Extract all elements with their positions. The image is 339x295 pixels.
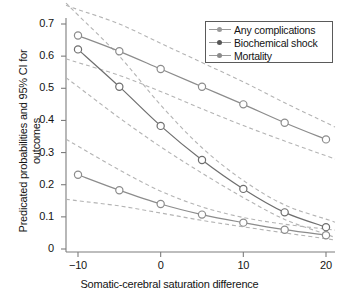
legend-marker-icon (209, 25, 231, 35)
data-point-marker (281, 226, 288, 233)
legend-label: Mortality (234, 50, 272, 62)
data-point-marker (322, 136, 329, 143)
data-point-marker (240, 185, 247, 192)
ci-band-line (66, 199, 335, 240)
x-axis-title: Somatic-cerebral saturation difference (0, 278, 339, 290)
y-tick-label: 0.3 (26, 146, 54, 158)
data-point-marker (198, 83, 205, 90)
y-tick-label: 0 (26, 242, 54, 254)
y-tick-label: 0.6 (26, 49, 54, 61)
data-point-marker (198, 211, 205, 218)
legend-marker-icon (209, 51, 231, 61)
data-point-marker (198, 156, 205, 163)
data-point-marker (74, 46, 81, 53)
data-point-marker (157, 200, 164, 207)
data-point-marker (240, 101, 247, 108)
data-point-marker (240, 219, 247, 226)
y-tick-label: 0.2 (26, 178, 54, 190)
ci-band-line (66, 59, 335, 159)
data-point-marker (116, 83, 123, 90)
chart-legend: Any complications Biochemical shock Mort… (205, 21, 333, 63)
y-tick-label: 0.4 (26, 113, 54, 125)
x-tick-label: 20 (309, 259, 339, 271)
legend-label: Biochemical shock (234, 37, 318, 49)
data-point-marker (157, 122, 164, 129)
y-tick-label: 0.5 (26, 81, 54, 93)
legend-item-any-complications: Any complications (209, 24, 332, 36)
legend-item-mortality: Mortality (209, 50, 332, 62)
legend-item-biochemical-shock: Biochemical shock (209, 37, 332, 49)
data-point-marker (74, 171, 81, 178)
y-tick-label: 0.1 (26, 210, 54, 222)
data-point-marker (281, 209, 288, 216)
data-point-marker (157, 65, 164, 72)
x-tick-label: −10 (61, 259, 95, 271)
data-point-marker (116, 187, 123, 194)
data-point-marker (281, 119, 288, 126)
x-tick-label: 10 (226, 259, 260, 271)
data-point-marker (322, 224, 329, 231)
x-tick-label: 0 (144, 259, 178, 271)
y-tick-label: 0.7 (26, 17, 54, 29)
data-point-marker (74, 32, 81, 39)
chart-figure: Predicated probabilities and 95% CI for … (0, 0, 339, 295)
legend-label: Any complications (234, 24, 315, 36)
series-line (78, 49, 326, 227)
data-point-marker (322, 232, 329, 239)
data-point-marker (116, 48, 123, 55)
legend-marker-icon (209, 38, 231, 48)
